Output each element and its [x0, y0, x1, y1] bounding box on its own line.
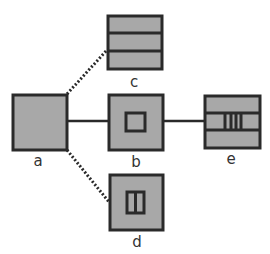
node-b: b	[109, 95, 163, 171]
node-a-label: a	[33, 152, 42, 170]
edge-a-d	[67, 150, 109, 202]
node-a: a	[13, 95, 67, 170]
node-c-label: c	[130, 73, 138, 91]
node-e-label: e	[226, 150, 235, 168]
node-e: e	[205, 96, 260, 168]
node-c: c	[108, 16, 162, 91]
node-d-label: d	[132, 233, 142, 251]
diagram: a b c d e	[0, 0, 270, 254]
node-d: d	[110, 175, 163, 251]
edge-a-c	[67, 50, 107, 94]
inner-square	[126, 113, 145, 131]
node-b-label: b	[131, 153, 141, 171]
